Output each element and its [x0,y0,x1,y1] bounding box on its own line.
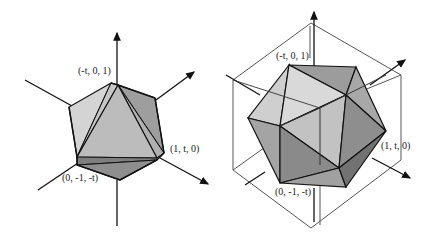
right-label-bottom: (0, -1, -t) [275,186,311,197]
left-axis-x-front [160,158,208,184]
diagram-canvas: (-t, 0, 1) (1, t, 0) (0, -1, -t) (-t, 0,… [0,0,433,238]
diagram-svg [0,0,433,238]
right-label-right: (1, t, 0) [381,140,410,151]
left-axis-x-back [25,80,72,106]
right-label-top: (-t, 0, 1) [276,50,309,61]
right-figure [226,12,410,228]
left-axis-y [156,72,194,100]
left-figure [25,33,208,226]
left-label-bottom: (0, -1, -t) [62,172,98,183]
left-label-top: (-t, 0, 1) [78,65,111,76]
left-label-right: (1, t, 0) [170,143,199,154]
